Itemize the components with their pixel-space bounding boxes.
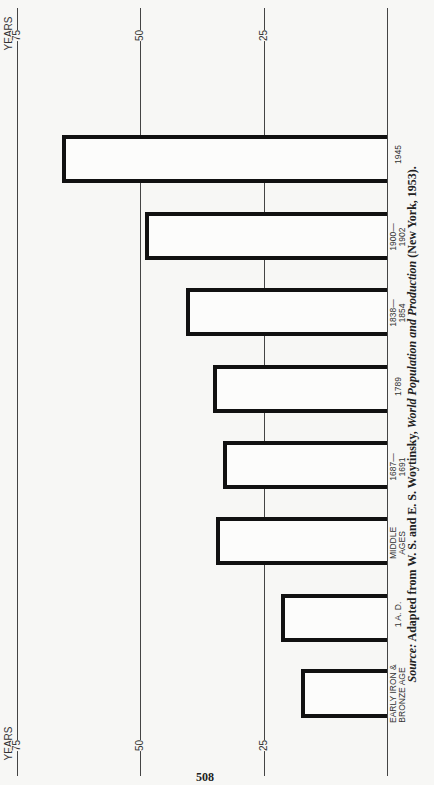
bar-middle-ages [216,517,387,565]
gridline-50 [140,8,141,776]
category-label-1-ad: 1 A. D. [394,595,403,635]
tick-label-50-top: 50 [134,30,145,41]
source-note: Source: Adapted from W. S. and E. S. Woy… [405,193,420,683]
tick-label-25-top: 25 [258,30,269,41]
bar-1-ad [281,594,387,642]
category-label-1945: 1945 [394,135,403,175]
bar-1900-1902 [145,212,387,260]
tick-label-25-bottom: 25 [258,740,269,751]
bar-1945 [62,135,387,183]
gridline-75 [17,8,18,776]
category-label-1789: 1789 [394,367,403,407]
tick-label-50-bottom: 50 [134,740,145,751]
bar-1838-1854 [186,288,387,336]
tick-label-75-top: 75 [11,30,22,41]
bar-1789 [213,365,387,413]
page-number: 508 [196,770,214,785]
bar-1687-1691 [223,441,387,489]
bar-early-iron-bronze [301,669,387,718]
baseline-0 [387,8,388,776]
tick-label-75-bottom: 75 [11,740,22,751]
